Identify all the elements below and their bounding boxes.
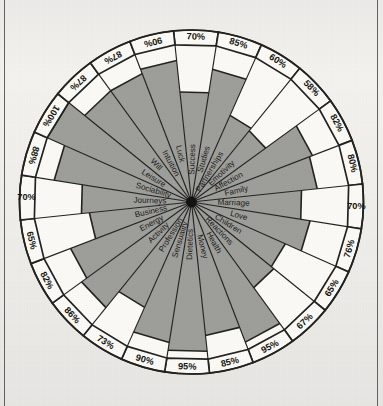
data-edge bbox=[180, 92, 209, 93]
sector-category-label: Marriage bbox=[217, 198, 250, 208]
data-edge bbox=[168, 350, 207, 351]
sector-percent-label: 70% bbox=[347, 201, 365, 211]
scanned-page: SuccessStudiesPartnershipsEmotivityAffec… bbox=[0, 0, 383, 406]
data-edge bbox=[301, 190, 302, 219]
radar-chart-svg: SuccessStudiesPartnershipsEmotivityAffec… bbox=[0, 0, 383, 406]
life-wheel-chart: SuccessStudiesPartnershipsEmotivityAffec… bbox=[0, 0, 383, 406]
sector-percent-label: 95% bbox=[178, 361, 197, 371]
sector-percent-label: 70% bbox=[17, 192, 35, 202]
sector-category-label: Dietetics bbox=[185, 229, 195, 260]
sector-percent-label: 70% bbox=[187, 31, 206, 41]
data-edge bbox=[82, 185, 83, 214]
chart-center-hub bbox=[186, 197, 197, 208]
